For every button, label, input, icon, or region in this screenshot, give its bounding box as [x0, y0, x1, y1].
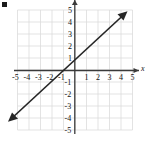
x-tick-label-3: 3: [108, 74, 112, 82]
y-tick-label-2: 2: [68, 43, 72, 51]
graph-figure: x -5 -4 -3 -2 -1 1 2 3 4 5 5 4 3 2 1 -1 …: [0, 0, 150, 145]
x-tick-label-2: 2: [96, 74, 100, 82]
y-tick-label-1: 1: [68, 55, 72, 63]
x-tick-label-4: 4: [119, 74, 123, 82]
axis-lines: [14, 0, 139, 134]
x-tick-label--2: -2: [47, 74, 54, 82]
y-tick-label--5: -5: [65, 127, 72, 135]
axis-arrowheads: [72, 0, 139, 73]
y-tick-label-4: 4: [68, 19, 72, 27]
x-axis-label: x: [141, 65, 145, 73]
y-tick-label--2: -2: [65, 91, 72, 99]
coordinate-plane: [0, 0, 150, 145]
x-tick-label--5: -5: [12, 74, 19, 82]
y-tick-label-3: 3: [68, 31, 72, 39]
y-tick-label-5: 5: [68, 7, 72, 15]
x-tick-label--4: -4: [24, 74, 31, 82]
y-tick-label--1: -1: [65, 79, 72, 87]
x-tick-label--3: -3: [35, 74, 42, 82]
x-tick-label-1: 1: [85, 74, 89, 82]
x-tick-label-5: 5: [131, 74, 135, 82]
y-tick-label--4: -4: [65, 115, 72, 123]
y-tick-label--3: -3: [65, 103, 72, 111]
